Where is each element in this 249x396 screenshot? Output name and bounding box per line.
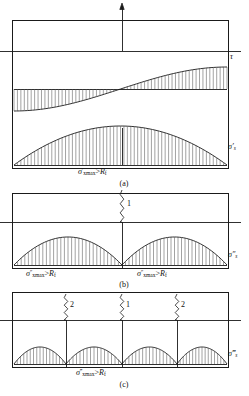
crack-1-center <box>120 294 124 320</box>
tau-label: τ <box>230 52 233 61</box>
sigma-x-arch-left-hatch <box>18 237 119 265</box>
crack-2-right-label: 2 <box>181 300 185 309</box>
crack-1-label-b: 1 <box>127 199 131 208</box>
sigma-dprime-xmax-label-left: σ″xmax>Rf <box>26 269 56 278</box>
crack-2-left <box>64 294 68 320</box>
stress-distribution-figure <box>0 0 249 396</box>
caption-a: (a) <box>104 179 144 188</box>
caption-b: (b) <box>104 280 144 289</box>
sigma-prime-s-label: σ′s <box>228 142 236 151</box>
sigma-prime-xmax-label: σ′xmax>Rf <box>78 167 107 176</box>
caption-c: (c) <box>104 380 144 389</box>
sigma-x-arch-2-hatch <box>125 347 173 364</box>
sigma-x-arch-0-hatch <box>17 347 63 364</box>
sigma-tprime-s-label: σ‴s <box>228 349 237 358</box>
crack-1 <box>120 190 124 222</box>
sigma-x-arch-3-hatch <box>180 347 224 364</box>
sigma-tprime-xmax-label: σ‴xmax>Rf <box>76 368 106 377</box>
sigma-x-arch-hatch <box>17 126 223 165</box>
sigma-x-arch-1-hatch <box>70 347 119 364</box>
load-arrow-head <box>120 3 124 10</box>
sigma-x-arch-right-hatch <box>126 237 224 265</box>
sigma-dprime-xmax-label-right: σ″xmax>Rf <box>137 269 167 278</box>
sigma-dprime-s-label: σ″s <box>228 250 237 259</box>
crack-2-left-label: 2 <box>70 300 74 309</box>
crack-1-center-label: 1 <box>126 300 130 309</box>
crack-2-right <box>175 294 179 320</box>
